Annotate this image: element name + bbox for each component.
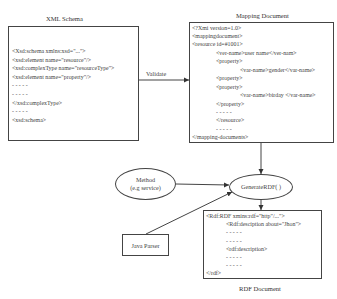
mapping-document-box: <?Xmi version=1.0><mappingdocument><reso… [189, 22, 334, 143]
code-line: <property> [216, 74, 243, 82]
rdf-document-title: RDF Document [239, 285, 281, 292]
method-example-label: (e.g service) [130, 184, 161, 192]
code-line: <Rdf:desciption about="Jhon"> [226, 220, 301, 228]
code-line: </property> [216, 100, 244, 108]
code-line: - - - - - [226, 253, 242, 261]
code-line: - - - - - [12, 107, 28, 115]
xml-schema-box: <Xsd:schema xmlns:xsd="..."><xsd:element… [8, 26, 139, 141]
code-line: <var-name>birday </var-name> [240, 91, 316, 99]
code-line: <var-name>gender</var-name> [240, 66, 315, 74]
code-line: <property> [216, 57, 243, 65]
code-line: <xsd:element name="resource"/> [12, 56, 91, 64]
code-line: <xsd:element name="property"/> [12, 73, 91, 81]
code-line: - - - - - [12, 90, 28, 98]
method-node: Method (e.g service) [115, 168, 176, 200]
code-line: </mapping-documents> [192, 133, 248, 141]
xml-schema-title: XML Schema [46, 15, 83, 22]
code-line: <xsd:schema> [12, 116, 46, 124]
code-line: <Rdf:RDF xmins:rdf="http"/..."> [206, 212, 285, 220]
code-line: <property> [216, 83, 243, 91]
code-line: </xsd:complexType> [12, 99, 62, 107]
code-line: <mappingdocument> [192, 32, 243, 40]
code-line: - - - - - [226, 261, 242, 269]
java-parser-box: Java Parser [122, 234, 169, 256]
code-line: <resource id=#1001> [192, 40, 243, 48]
rdf-document-box: <Rdf:RDF xmins:rdf="http"/..."><Rdf:desc… [203, 210, 322, 279]
method-to-generate-arrow [176, 184, 229, 185]
method-label: Method [136, 176, 155, 184]
code-line: - - - - - [226, 228, 242, 236]
code-line: </rdf> [206, 269, 221, 277]
code-line: <ver-name>user name</ver-nam> [216, 49, 297, 57]
validate-label: Validate [146, 70, 166, 77]
code-line: - - - - - [216, 125, 232, 133]
generate-rdf-label: GenerateRDF( ) [241, 183, 281, 191]
mapping-document-title: Mapping Document [236, 12, 289, 19]
code-line: </resource> [216, 116, 244, 124]
code-line: - - - - - [12, 81, 28, 89]
code-line: <rdf:description> [226, 245, 267, 253]
generate-rdf-node: GenerateRDF( ) [229, 174, 293, 200]
code-line: <?Xmi version=1.0> [192, 24, 241, 32]
code-line: - - - - - [226, 237, 242, 245]
code-line: - - - - - [216, 108, 232, 116]
code-line: <Xsd:schema xmlns:xsd="..."> [12, 47, 86, 55]
code-line: <xsd:complexType name="resourceType"> [12, 64, 114, 72]
java-parser-label: Java Parser [131, 242, 159, 249]
